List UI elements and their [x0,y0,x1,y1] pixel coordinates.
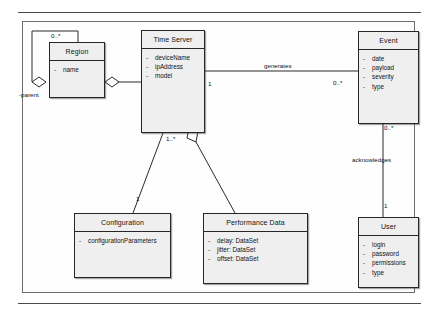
visibility-marker: - [208,245,217,254]
attribute-row: - permissions [363,258,415,267]
class-attributes-region: - name [50,61,104,78]
attribute-row: - severity [363,72,415,81]
label-acknowledges-source-multiplicity: 0..* [384,124,393,131]
class-name-performance-data: Performance Data [204,214,307,232]
label-acknowledges: acknowledges [352,156,391,163]
class-name-time-server: Time Server [142,31,204,49]
visibility-marker: - [208,254,217,263]
attribute-row: - date [363,54,415,63]
attribute-row: - name [54,65,101,74]
attribute-label: configurationParameters [88,236,157,245]
attribute-label: deviceName [155,53,190,62]
label-region-self-multiplicity: 0..* [51,32,60,39]
attribute-label: login [372,240,385,249]
uml-class-diagram-page: 0..* -parent generates 1 0..* 1..* 1 0..… [0,0,439,319]
visibility-marker: - [363,240,372,249]
class-attributes-performance-data: - delay: DataSet - jitter: DataSet - off… [204,232,307,268]
class-name-event: Event [359,32,418,50]
attribute-label: type [372,268,384,277]
attribute-label: name [63,65,79,74]
attribute-row: - ipAddress [146,62,201,71]
visibility-marker: - [208,236,217,245]
attribute-label: ipAddress [155,62,183,71]
label-acknowledges-target-multiplicity: 1 [384,202,387,209]
visibility-marker: - [363,249,372,258]
attribute-label: severity [372,72,394,81]
attribute-label: offset: DataSet [217,254,259,263]
class-box-performance-data[interactable]: Performance Data - delay: DataSet - jitt… [203,213,308,284]
attribute-row: - password [363,249,415,258]
attribute-label: password [372,249,399,258]
label-configuration-source-multiplicity: 1..* [166,135,175,142]
attribute-row: - type [363,268,415,277]
class-box-event[interactable]: Event - date - payload - severity - type [358,31,419,124]
attribute-label: permissions [372,258,406,267]
attribute-label: type [372,82,384,91]
visibility-marker: - [363,268,372,277]
attribute-row: - type [363,82,415,91]
class-box-user[interactable]: User - login - password - permissions - … [358,217,419,288]
attribute-label: jitter: DataSet [217,245,255,254]
class-attributes-configuration: - configurationParameters [75,232,170,249]
attribute-row: - jitter: DataSet [208,245,304,254]
attribute-row: - delay: DataSet [208,236,304,245]
label-generates: generates [264,62,292,69]
class-box-time-server[interactable]: Time Server - deviceName - ipAddress - m… [141,30,205,133]
label-parent-role: -parent [19,91,39,98]
class-name-user: User [359,218,418,236]
visibility-marker: - [363,72,372,81]
label-generates-target-multiplicity: 0..* [333,79,342,86]
top-horizontal-rule [18,12,421,13]
attribute-label: date [372,54,384,63]
visibility-marker: - [363,82,372,91]
visibility-marker: - [79,236,88,245]
visibility-marker: - [363,54,372,63]
visibility-marker: - [363,258,372,267]
class-name-configuration: Configuration [75,214,170,232]
attribute-label: payload [372,63,394,72]
visibility-marker: - [146,62,155,71]
bottom-horizontal-rule [18,303,421,304]
attribute-row: - configurationParameters [79,236,167,245]
attribute-row: - model [146,71,201,80]
label-configuration-target-multiplicity: 1 [136,195,139,202]
attribute-row: - login [363,240,415,249]
class-attributes-event: - date - payload - severity - type [359,50,418,95]
visibility-marker: - [146,53,155,62]
attribute-row: - offset: DataSet [208,254,304,263]
attribute-row: - payload [363,63,415,72]
label-generates-source-multiplicity: 1 [208,80,211,87]
class-name-region: Region [50,43,104,61]
visibility-marker: - [363,63,372,72]
class-box-configuration[interactable]: Configuration - configurationParameters [74,213,171,278]
attribute-row: - deviceName [146,53,201,62]
class-box-region[interactable]: Region - name [49,42,105,98]
visibility-marker: - [146,71,155,80]
class-attributes-user: - login - password - permissions - type [359,236,418,281]
attribute-label: delay: DataSet [217,236,258,245]
attribute-label: model [155,71,172,80]
visibility-marker: - [54,65,63,74]
class-attributes-time-server: - deviceName - ipAddress - model [142,49,204,85]
